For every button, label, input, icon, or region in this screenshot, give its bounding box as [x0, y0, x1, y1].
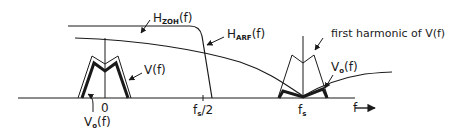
spectrum-diagram: HZOH(f) HARF(f) V(f) Vo(f) first harmoni…: [0, 0, 449, 134]
h-arf-leader-arrow-icon: [207, 37, 224, 45]
vo-left-leader-arrow-icon: [88, 94, 93, 112]
diagram-graphics: [0, 0, 449, 134]
v-f-label: V(f): [144, 64, 166, 76]
harmonic-leader-arrow-icon: [315, 38, 323, 50]
fs-half-label: fs/2: [193, 104, 213, 118]
vo-right-leader-arrow-icon: [325, 75, 333, 88]
h-zoh-label: HZOH(f): [153, 12, 193, 26]
fs-label: fs: [298, 104, 306, 118]
h-arf-label: HARF(f): [227, 28, 265, 42]
vo-right-label: Vo(f): [331, 61, 358, 75]
f-axis-label: f: [353, 102, 357, 114]
zero-tick-label: 0: [101, 102, 109, 114]
v-leader-arrow-icon: [129, 73, 142, 80]
first-harmonic-label: first harmonic of V(f): [331, 28, 445, 39]
vo-left-label: Vo(f): [84, 116, 111, 130]
